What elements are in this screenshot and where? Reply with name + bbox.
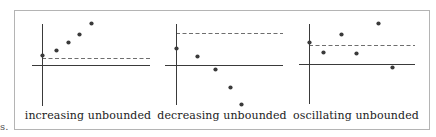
sequence-point — [195, 54, 199, 58]
sequence-point — [307, 40, 311, 44]
panel-oscillating-unbounded — [299, 21, 415, 104]
sequence-point — [174, 46, 178, 50]
panel-label-increasing-unbounded: increasing unbounded — [25, 110, 151, 122]
panel-label-decreasing-unbounded: decreasing unbounded — [157, 110, 286, 122]
sequence-point — [40, 53, 44, 57]
panel-decreasing-unbounded — [165, 24, 283, 107]
sequence-point — [390, 65, 394, 69]
sequence-point — [77, 32, 81, 36]
sequence-point — [354, 51, 358, 55]
panel-increasing-unbounded — [32, 21, 150, 106]
sequence-point — [89, 21, 93, 25]
sequence-point — [213, 67, 217, 71]
panel-label-oscillating-unbounded: oscillating unbounded — [293, 110, 419, 122]
sequence-point — [239, 102, 243, 106]
sequence-point — [228, 85, 232, 89]
sequence-point — [54, 48, 58, 52]
sequence-point — [339, 32, 343, 36]
sequence-point — [376, 21, 380, 25]
sequence-point — [66, 40, 70, 44]
sequence-point — [321, 50, 325, 54]
